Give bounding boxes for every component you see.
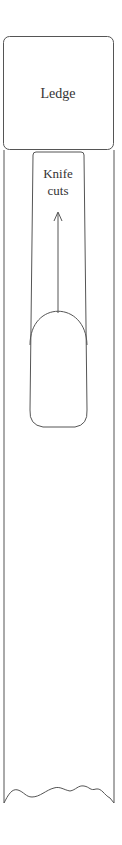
cut-arch — [30, 311, 87, 345]
knife-slot-label-line1: Knife — [43, 166, 73, 181]
diagram-canvas: Ledge Knife cuts — [0, 0, 122, 845]
outer-column-outline — [4, 150, 114, 803]
ledge-label: Ledge — [41, 86, 76, 101]
knife-slot-label-line2: cuts — [48, 183, 69, 198]
